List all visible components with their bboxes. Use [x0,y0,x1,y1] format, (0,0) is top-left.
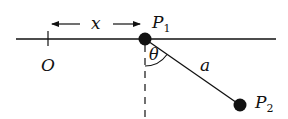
p2-label-sub: 2 [266,102,273,115]
p1-label-sub: 1 [163,22,170,35]
mass-p1 [139,33,152,46]
p2-label-main: P [254,92,267,112]
p1-label-main: P [151,12,164,32]
diagram-svg: O x θ a P1 P2 [0,0,288,119]
p2-label: P2 [254,92,273,115]
pendulum-diagram: O x θ a P1 P2 [0,0,288,119]
p1-label: P1 [151,12,170,35]
mass-p2 [234,99,247,112]
rod-line [145,39,240,105]
origin-label: O [41,55,55,75]
distance-label: x [91,13,101,33]
angle-label: θ [149,45,159,64]
length-label: a [200,55,210,75]
